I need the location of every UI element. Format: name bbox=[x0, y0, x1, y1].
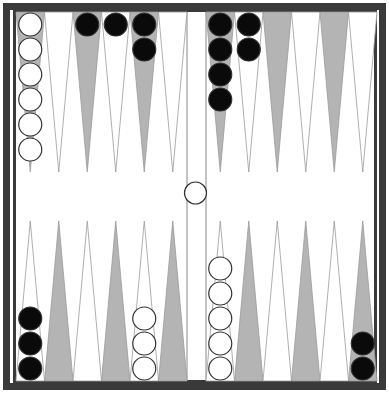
black-checker[interactable] bbox=[76, 13, 99, 36]
black-checker[interactable] bbox=[209, 88, 232, 111]
white-checker[interactable] bbox=[19, 13, 42, 36]
point-top-left-3[interactable] bbox=[73, 12, 102, 172]
point-top-left-2[interactable] bbox=[45, 12, 74, 172]
white-checker[interactable] bbox=[19, 138, 42, 161]
point-bottom-right-2[interactable] bbox=[235, 221, 264, 381]
white-checker[interactable] bbox=[19, 63, 42, 86]
white-checker[interactable] bbox=[209, 357, 232, 380]
point-bottom-left-4[interactable] bbox=[102, 221, 131, 381]
point-bottom-right-6[interactable] bbox=[349, 221, 378, 381]
black-checker[interactable] bbox=[133, 38, 156, 61]
point-bottom-left-3[interactable] bbox=[73, 221, 102, 381]
black-checker[interactable] bbox=[237, 38, 260, 61]
white-checker[interactable] bbox=[209, 307, 232, 330]
black-checker[interactable] bbox=[133, 13, 156, 36]
point-top-right-4[interactable] bbox=[292, 12, 321, 172]
black-checker[interactable] bbox=[19, 332, 42, 355]
point-top-right-3[interactable] bbox=[263, 12, 292, 172]
black-checker[interactable] bbox=[19, 357, 42, 380]
white-checker[interactable] bbox=[133, 332, 156, 355]
point-top-right-5[interactable] bbox=[320, 12, 349, 172]
white-checker[interactable] bbox=[209, 282, 232, 305]
white-checker[interactable] bbox=[209, 332, 232, 355]
white-checker[interactable] bbox=[19, 38, 42, 61]
black-checker[interactable] bbox=[209, 13, 232, 36]
black-checker[interactable] bbox=[351, 357, 374, 380]
black-checker[interactable] bbox=[237, 13, 260, 36]
white-checker[interactable] bbox=[209, 257, 232, 280]
black-checker[interactable] bbox=[209, 63, 232, 86]
point-bottom-right-4[interactable] bbox=[292, 221, 321, 381]
point-top-left-4[interactable] bbox=[102, 12, 131, 172]
point-bottom-right-1[interactable] bbox=[206, 221, 235, 381]
point-bottom-left-5[interactable] bbox=[130, 221, 159, 381]
point-top-right-1[interactable] bbox=[206, 12, 235, 172]
black-checker[interactable] bbox=[19, 307, 42, 330]
white-checker[interactable] bbox=[19, 88, 42, 111]
white-checker[interactable] bbox=[133, 307, 156, 330]
point-top-right-6[interactable] bbox=[349, 12, 378, 172]
point-top-left-1[interactable] bbox=[16, 12, 45, 172]
bar-white-checker[interactable] bbox=[185, 182, 207, 204]
point-top-left-5[interactable] bbox=[130, 12, 159, 172]
point-bottom-left-6[interactable] bbox=[159, 221, 188, 381]
point-bottom-left-2[interactable] bbox=[45, 221, 74, 381]
point-bottom-left-1[interactable] bbox=[16, 221, 45, 381]
black-checker[interactable] bbox=[209, 38, 232, 61]
board-playing-area bbox=[0, 0, 389, 396]
white-checker[interactable] bbox=[19, 113, 42, 136]
black-checker[interactable] bbox=[104, 13, 127, 36]
point-bottom-right-5[interactable] bbox=[320, 221, 349, 381]
point-top-left-6[interactable] bbox=[159, 12, 188, 172]
black-checker[interactable] bbox=[351, 332, 374, 355]
white-checker[interactable] bbox=[133, 357, 156, 380]
point-bottom-right-3[interactable] bbox=[263, 221, 292, 381]
point-top-right-2[interactable] bbox=[235, 12, 264, 172]
